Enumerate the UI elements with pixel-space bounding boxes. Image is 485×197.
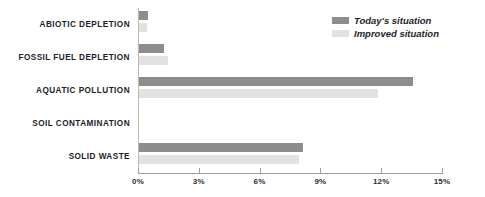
legend-swatch-today-icon	[332, 17, 349, 24]
chart-row: SOLID WASTE	[0, 140, 485, 173]
category-label: ABIOTIC DEPLETION	[0, 20, 130, 29]
category-label: SOIL CONTAMINATION	[0, 119, 130, 128]
legend-swatch-improved-icon	[332, 30, 349, 37]
bar-today	[139, 44, 164, 53]
legend-item-improved: Improved situation	[332, 27, 439, 40]
chart-legend: Today's situation Improved situation	[332, 14, 439, 40]
x-axis-tick-label: 9%	[314, 177, 326, 186]
chart-row: FOSSIL FUEL DEPLETION	[0, 41, 485, 74]
bar-today	[139, 143, 303, 152]
bar-improved	[139, 155, 299, 164]
bar-improved	[139, 23, 147, 32]
category-label: SOLID WASTE	[0, 152, 130, 161]
bar-improved	[139, 56, 168, 65]
x-axis-tick-label: 6%	[254, 177, 266, 186]
chart-row: AQUATIC POLLUTION	[0, 74, 485, 107]
bar-today	[139, 77, 413, 86]
x-axis-tick-label: 0%	[132, 177, 144, 186]
legend-item-today: Today's situation	[332, 14, 439, 27]
x-axis-line	[138, 173, 442, 174]
category-label: AQUATIC POLLUTION	[0, 86, 130, 95]
legend-label-improved: Improved situation	[354, 28, 439, 39]
x-axis-tick-label: 12%	[373, 177, 390, 186]
category-label: FOSSIL FUEL DEPLETION	[0, 53, 130, 62]
bar-chart: 0%3%6%9%12%15% ABIOTIC DEPLETIONFOSSIL F…	[0, 0, 485, 197]
bar-improved	[139, 89, 378, 98]
x-axis-tick-label: 3%	[193, 177, 205, 186]
x-axis-tick-label: 15%	[434, 177, 451, 186]
bar-today	[139, 11, 148, 20]
legend-label-today: Today's situation	[354, 15, 431, 26]
chart-row: SOIL CONTAMINATION	[0, 107, 485, 140]
